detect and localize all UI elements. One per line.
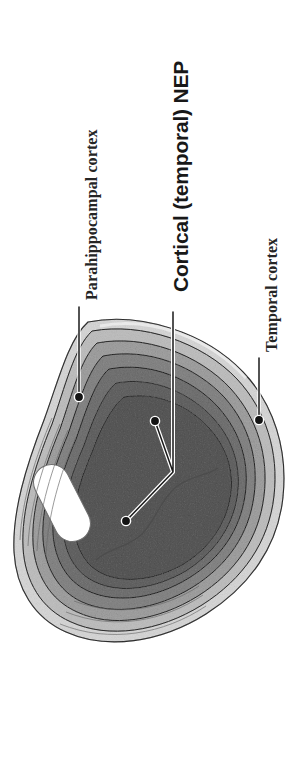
label-temporal-cortex: Temporal cortex	[264, 238, 280, 352]
leader-dot-temporal	[254, 415, 263, 424]
label-parahippocampal-cortex: Parahippocampal cortex	[84, 129, 100, 300]
brain-tissue-layers	[14, 319, 284, 641]
brain-section-illustration	[0, 0, 296, 777]
leader-dot-nep-lower	[121, 516, 130, 525]
leader-dot-nep-upper	[150, 416, 159, 425]
brain-section-figure: Parahippocampal cortex Cortical (tempora…	[0, 0, 296, 777]
leader-dot-parahippocampal	[74, 392, 83, 401]
label-cortical-temporal-nep: Cortical (temporal) NEP	[170, 61, 191, 292]
